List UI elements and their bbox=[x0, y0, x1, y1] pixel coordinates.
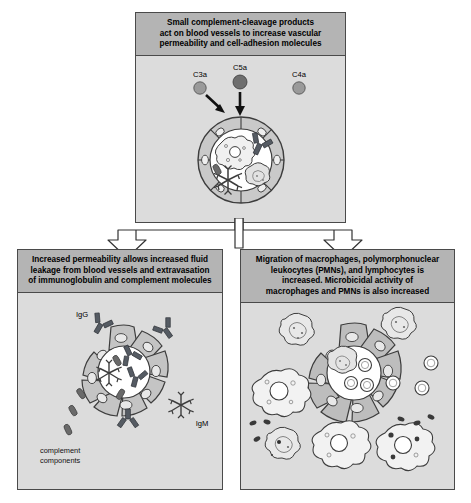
right-panel-header: Migration of macrophages, polymorphonucl… bbox=[241, 250, 454, 303]
right-vessel-figure bbox=[241, 303, 455, 476]
left-panel-header: Increased permeability allows increased … bbox=[18, 250, 222, 293]
pmn-leukocyte bbox=[265, 427, 300, 459]
left-header-line-1: Increased permeability allows increased … bbox=[24, 255, 216, 266]
c5a-dot bbox=[233, 75, 247, 89]
c4a-dot bbox=[293, 81, 305, 93]
left-vessel-figure: IgG bbox=[18, 293, 223, 478]
top-header-line-2: act on blood vessels to increase vascula… bbox=[142, 29, 339, 40]
igg-label: IgG bbox=[76, 310, 88, 319]
c3a-arrow bbox=[206, 95, 225, 113]
complement-label-line-2: components bbox=[40, 456, 81, 465]
top-panel: Small complement-cleavage products act o… bbox=[135, 12, 346, 223]
complement-label-line-1: complement bbox=[40, 446, 80, 455]
top-vessel-figure: C3a C5a C4a bbox=[136, 56, 346, 207]
bottom-right-panel: Migration of macrophages, polymorphonucl… bbox=[240, 249, 455, 490]
right-header-line-4: macrophages and PMNs is also increased bbox=[247, 287, 448, 298]
pmn-leukocyte bbox=[279, 313, 314, 345]
c3a-label: C3a bbox=[193, 70, 208, 79]
macrophage-cell bbox=[312, 421, 371, 469]
c3a-dot bbox=[194, 81, 206, 93]
left-header-line-3: of immunoglobulin and complement molecul… bbox=[24, 276, 216, 287]
figure-canvas: Small complement-cleavage products act o… bbox=[0, 0, 471, 503]
c5a-arrow bbox=[235, 92, 245, 116]
left-header-line-2: leakage from blood vessels and extravasa… bbox=[24, 266, 216, 277]
right-header-line-2: leukocytes (PMNs), and lymphocytes is bbox=[247, 266, 448, 277]
right-header-line-1: Migration of macrophages, polymorphonucl… bbox=[247, 255, 448, 266]
macrophage-cell bbox=[252, 369, 311, 417]
igm-antibody bbox=[168, 392, 193, 418]
pmn-leukocyte bbox=[381, 307, 416, 339]
right-panel-diagram bbox=[241, 303, 454, 476]
top-header-line-3: permeability and cell-adhesion molecules bbox=[142, 39, 339, 50]
c5a-label: C5a bbox=[233, 63, 248, 72]
igm-label: IgM bbox=[196, 419, 209, 428]
c4a-label: C4a bbox=[292, 70, 307, 79]
top-panel-header: Small complement-cleavage products act o… bbox=[136, 13, 345, 56]
top-panel-diagram: C3a C5a C4a bbox=[136, 56, 345, 207]
left-panel-diagram: IgG bbox=[18, 293, 222, 478]
top-header-line-1: Small complement-cleavage products bbox=[142, 18, 339, 29]
macrophage-cell bbox=[376, 423, 435, 471]
connector-center-stem bbox=[235, 218, 243, 248]
bottom-left-panel: Increased permeability allows increased … bbox=[17, 249, 223, 490]
right-header-line-3: increased. Microbicidal activity of bbox=[247, 276, 448, 287]
